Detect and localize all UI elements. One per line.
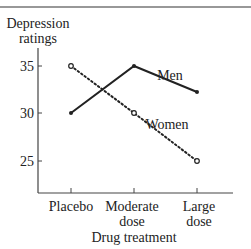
interaction-line-chart: Depression ratings 35 30 25 Placebo Mode… — [0, 0, 251, 249]
x-tick-large-line2: dose — [186, 214, 212, 229]
x-tick-large-line1: Large — [183, 199, 215, 214]
women-point-moderate — [132, 111, 137, 116]
x-tick-placebo: Placebo — [49, 199, 93, 214]
x-tick-moderate-line1: Moderate — [105, 199, 159, 214]
women-point-placebo — [69, 64, 74, 69]
men-series-label: Men — [157, 68, 183, 83]
y-tick-35: 35 — [20, 59, 34, 74]
y-axis-label-line1: Depression — [7, 16, 70, 31]
y-tick-30: 30 — [20, 106, 34, 121]
men-point-moderate — [132, 64, 136, 68]
men-point-large — [195, 90, 199, 94]
women-series-label: Women — [145, 117, 188, 132]
x-ticks — [71, 188, 197, 193]
y-tick-25: 25 — [20, 154, 34, 169]
y-ticks: 35 30 25 — [20, 59, 42, 169]
x-axis-label: Drug treatment — [91, 230, 176, 245]
women-point-large — [195, 159, 200, 164]
men-point-placebo — [69, 111, 73, 115]
x-tick-moderate-line2: dose — [119, 214, 145, 229]
y-axis-label-line2: ratings — [19, 31, 57, 46]
